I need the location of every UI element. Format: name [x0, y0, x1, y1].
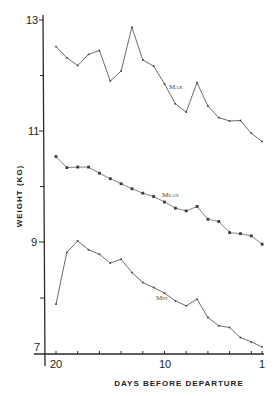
x-tick-label-10: 10	[159, 358, 171, 370]
y-axis	[43, 15, 45, 366]
y-tick-label-11: 11	[28, 125, 39, 137]
y-tick-label-7: 7	[34, 341, 40, 353]
x-axis-title: DAYS BEFORE DEPARTURE	[114, 379, 243, 388]
weight-line-chart: 13 11 9 7 20 10 1 DAYS BEFORE DEPARTURE …	[0, 0, 280, 396]
series-label-min: Min	[156, 294, 168, 302]
y-axis-title: WEIGHT (KG)	[15, 165, 24, 228]
x-tick-label-1: 1	[259, 358, 265, 370]
series-max	[55, 26, 263, 142]
y-tick-label-9: 9	[31, 236, 37, 248]
series-label-mean: Mean	[162, 191, 179, 199]
series-label-max: Max	[169, 83, 183, 91]
series-mean	[55, 155, 264, 245]
x-tick-label-20: 20	[50, 358, 62, 370]
y-tick-label-13: 13	[26, 14, 38, 26]
